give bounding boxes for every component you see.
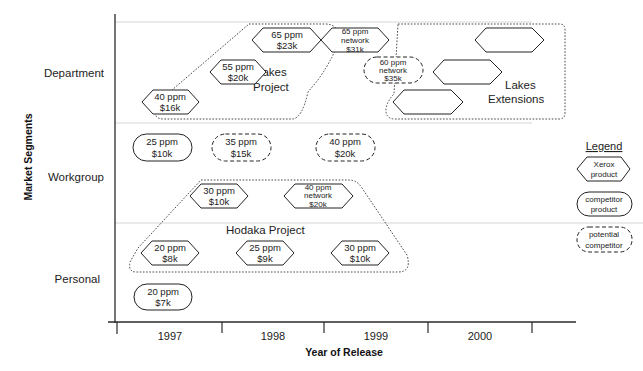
svg-text:$23k: $23k xyxy=(277,40,298,51)
segment-label-workgroup: Workgroup xyxy=(48,171,104,183)
svg-text:Xerox: Xerox xyxy=(594,160,615,169)
svg-text:20 ppm: 20 ppm xyxy=(147,286,179,297)
svg-text:$20k: $20k xyxy=(228,72,249,83)
svg-text:$20k: $20k xyxy=(335,148,356,159)
product-xerox-20ppm-8k: 20 ppm $8k xyxy=(141,241,199,265)
product-potential-60ppm-network-35k: 60 ppm network $35k xyxy=(364,57,423,83)
lakes-extensions-label: Lakes xyxy=(505,79,536,91)
svg-text:network: network xyxy=(341,36,370,45)
product-xerox-65ppm-network-31k: 65 ppm network $31k xyxy=(321,27,389,54)
svg-text:$10k: $10k xyxy=(152,148,173,159)
segment-label-department: Department xyxy=(44,67,105,79)
svg-text:35 ppm: 35 ppm xyxy=(225,136,257,147)
svg-text:$9k: $9k xyxy=(257,253,273,264)
product-xerox-30ppm-10k-personal: 30 ppm $10k xyxy=(331,241,389,265)
svg-text:$7k: $7k xyxy=(155,297,171,308)
lakes-project-label: Project xyxy=(253,81,290,93)
svg-text:20 ppm: 20 ppm xyxy=(154,242,186,253)
svg-text:$8k: $8k xyxy=(162,253,178,264)
svg-text:30 ppm: 30 ppm xyxy=(203,185,235,196)
svg-text:product: product xyxy=(591,205,618,214)
legend-title: Legend xyxy=(586,140,623,152)
svg-text:potential: potential xyxy=(589,230,619,239)
legend-xerox-product: Xerox product xyxy=(577,157,630,181)
product-xerox-30ppm-10k-workgroup: 30 ppm $10k xyxy=(190,184,248,208)
product-xerox-unlabeled-2000-bottom xyxy=(393,90,463,114)
svg-text:product: product xyxy=(591,170,618,179)
product-xerox-40ppm-16k: 40 ppm $16k xyxy=(142,90,199,114)
svg-text:$15k: $15k xyxy=(231,148,252,159)
legend: Legend Xerox product competitor product … xyxy=(577,140,632,252)
product-xerox-unlabeled-2000-top xyxy=(475,28,544,52)
product-xerox-40ppm-network-20k: 40 ppm network $20k xyxy=(284,183,353,209)
y-axis-title: Market Segments xyxy=(22,113,34,200)
product-competitor-20ppm-7k: 20 ppm $7k xyxy=(134,284,192,310)
svg-text:55 ppm: 55 ppm xyxy=(222,61,254,72)
hodaka-project-label: Hodaka Project xyxy=(226,224,305,236)
year-label-1997: 1997 xyxy=(158,330,182,342)
year-label-2000: 2000 xyxy=(468,330,492,342)
year-label-1999: 1999 xyxy=(364,330,388,342)
svg-text:competitor: competitor xyxy=(585,195,623,204)
svg-text:network: network xyxy=(304,191,333,200)
legend-potential-competitor: potential competitor xyxy=(577,227,632,252)
product-potential-35ppm-15k: 35 ppm $15k xyxy=(212,134,271,161)
svg-text:competitor: competitor xyxy=(585,241,623,250)
product-xerox-25ppm-9k: 25 ppm $9k xyxy=(236,241,294,265)
svg-text:25 ppm: 25 ppm xyxy=(249,242,281,253)
svg-text:$35k: $35k xyxy=(384,74,402,83)
segment-label-personal: Personal xyxy=(55,273,100,285)
product-potential-40ppm-20k: 40 ppm $20k xyxy=(316,134,375,161)
svg-text:$20k: $20k xyxy=(309,200,327,209)
product-competitor-25ppm-10k: 25 ppm $10k xyxy=(133,134,192,161)
svg-text:30 ppm: 30 ppm xyxy=(344,242,376,253)
svg-text:40 ppm: 40 ppm xyxy=(329,136,361,147)
svg-text:$31k: $31k xyxy=(346,45,364,54)
lakes-extensions-label: Extensions xyxy=(488,93,545,105)
product-xerox-55ppm-20k: 55 ppm $20k xyxy=(210,60,266,84)
svg-text:$16k: $16k xyxy=(160,102,181,113)
svg-text:$10k: $10k xyxy=(350,253,371,264)
product-roadmap-diagram: 1997 1998 1999 2000 Year of Release Depa… xyxy=(0,0,643,371)
x-axis-title: Year of Release xyxy=(305,346,383,358)
legend-competitor-product: competitor product xyxy=(577,192,632,216)
svg-text:40 ppm: 40 ppm xyxy=(154,91,186,102)
svg-text:65 ppm: 65 ppm xyxy=(271,29,303,40)
svg-text:25 ppm: 25 ppm xyxy=(146,136,178,147)
svg-text:$10k: $10k xyxy=(209,196,230,207)
year-label-1998: 1998 xyxy=(261,330,285,342)
svg-text:65 ppm: 65 ppm xyxy=(342,27,369,36)
product-xerox-65ppm-23k: 65 ppm $23k xyxy=(252,28,321,52)
product-xerox-unlabeled-2000-middle xyxy=(433,60,502,84)
